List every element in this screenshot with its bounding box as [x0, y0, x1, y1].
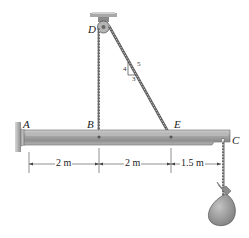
- slope-run-label: 3: [132, 76, 136, 83]
- label-c: C: [232, 135, 239, 146]
- label-d: D: [88, 24, 96, 35]
- dimension-ab: 2 m: [55, 158, 72, 168]
- slope-rise-label: 4: [123, 66, 127, 73]
- label-b: B: [87, 119, 94, 130]
- label-e: E: [174, 119, 181, 130]
- diagram-canvas: [0, 0, 249, 238]
- beam-abc: [24, 130, 230, 145]
- slope-hyp-label: 5: [137, 61, 141, 68]
- dimension-ec: 1.5 m: [180, 158, 205, 168]
- beam-cable-diagram: D A B E C 4 3 5 2 m 2 m 1.5 m: [0, 0, 249, 238]
- hanging-bag: [208, 182, 235, 226]
- dimension-be: 2 m: [124, 158, 141, 168]
- label-a: A: [23, 119, 30, 130]
- cable-de: [109, 26, 171, 137]
- ceiling-support: [90, 12, 117, 22]
- cable-db: [98, 28, 101, 136]
